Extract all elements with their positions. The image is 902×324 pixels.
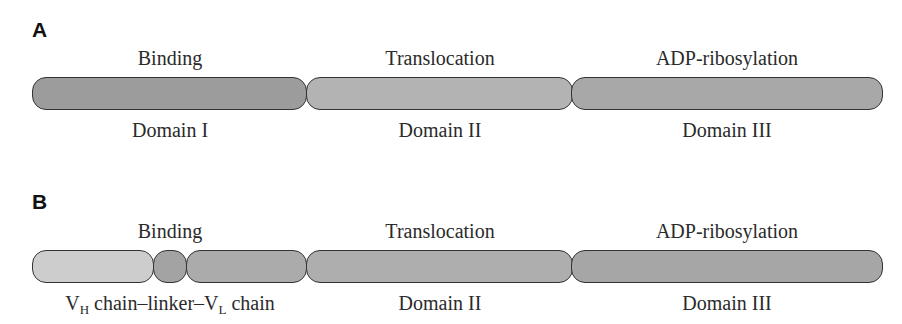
linker-bar bbox=[153, 250, 187, 283]
domain-iii-label-a: Domain III bbox=[682, 119, 771, 142]
panel-b-label: B bbox=[32, 190, 47, 214]
vl-rest: chain bbox=[226, 292, 274, 314]
translocation-label-a: Translocation bbox=[385, 47, 494, 70]
scfv-label: VH chain–linker–VL chain bbox=[65, 292, 275, 318]
vh-chain-bar bbox=[32, 250, 154, 283]
domain-iii-bar-a bbox=[571, 77, 883, 110]
binding-label-b: Binding bbox=[138, 220, 202, 243]
vh-rest: chain–linker– bbox=[89, 292, 204, 314]
domain-ii-bar-a bbox=[306, 77, 573, 110]
translocation-label-b: Translocation bbox=[385, 220, 494, 243]
binding-label-a: Binding bbox=[138, 47, 202, 70]
adp-ribosylation-label-a: ADP-ribosylation bbox=[656, 47, 798, 70]
domain-i-label: Domain I bbox=[132, 119, 208, 142]
adp-ribosylation-label-b: ADP-ribosylation bbox=[656, 220, 798, 243]
domain-ii-label-a: Domain II bbox=[399, 119, 482, 142]
domain-iii-bar-b bbox=[571, 250, 883, 283]
domain-ii-label-b: Domain II bbox=[399, 292, 482, 315]
vl-chain-bar bbox=[186, 250, 307, 283]
vl-v: V bbox=[204, 292, 218, 314]
domain-ii-bar-b bbox=[306, 250, 573, 283]
vh-v: V bbox=[65, 292, 79, 314]
domain-i-bar bbox=[32, 77, 307, 110]
domain-iii-label-b: Domain III bbox=[682, 292, 771, 315]
vh-sub: H bbox=[80, 302, 89, 317]
panel-a-label: A bbox=[32, 18, 47, 42]
